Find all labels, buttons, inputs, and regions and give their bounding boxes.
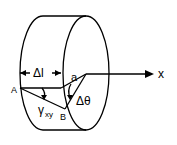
delta-l-arrow-left bbox=[20, 70, 26, 76]
x-axis-label: x bbox=[158, 67, 164, 81]
gamma-subscript: xy bbox=[45, 110, 53, 119]
torsion-cylinder-diagram: Δl A a B γ xy Δθ x bbox=[0, 0, 177, 145]
gamma-label: γ bbox=[38, 103, 44, 117]
delta-l-label: Δl bbox=[33, 66, 44, 80]
delta-l-arrow-right bbox=[55, 70, 61, 76]
point-A-label: A bbox=[11, 85, 17, 95]
x-axis-arrowhead bbox=[145, 70, 154, 78]
cylinder-front-face bbox=[63, 16, 109, 130]
gamma-arrowhead bbox=[41, 95, 47, 100]
point-a-label: a bbox=[71, 71, 78, 83]
point-B-label: B bbox=[60, 112, 66, 122]
delta-theta-label: Δθ bbox=[76, 94, 91, 108]
